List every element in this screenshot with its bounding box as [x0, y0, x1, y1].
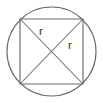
- geometry-figure: r r: [0, 0, 103, 103]
- radius-label-right: r: [68, 39, 72, 51]
- figure-canvas: r r: [0, 0, 103, 103]
- radius-label-upper-left: r: [39, 25, 43, 37]
